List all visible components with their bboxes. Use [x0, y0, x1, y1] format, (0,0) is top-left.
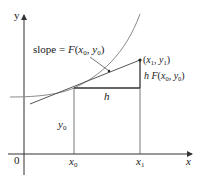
- solution-curve: [10, 14, 140, 97]
- run-h-label: h: [104, 90, 110, 102]
- y0-label: y0: [57, 118, 67, 132]
- slope-label: slope = F(x0, y0): [33, 43, 105, 57]
- x-axis-label: x: [185, 155, 191, 167]
- origin-label: 0: [14, 154, 20, 166]
- x1-tick-label: x1: [135, 155, 145, 169]
- euler-method-diagram: y x 0 x0 x1 y0 h slope = F(x0, y0) (x1, …: [0, 0, 201, 181]
- point1-label: (x1, y1): [143, 54, 170, 66]
- point-x1-y1: [138, 58, 141, 61]
- rise-label: h F(x0, y0): [144, 70, 185, 82]
- y-axis-label: y: [14, 9, 20, 21]
- x0-tick-label: x0: [68, 155, 78, 169]
- tangent-line: [30, 60, 140, 104]
- slope-pointer: [90, 57, 109, 71]
- slope-pointer-dot: [108, 70, 110, 72]
